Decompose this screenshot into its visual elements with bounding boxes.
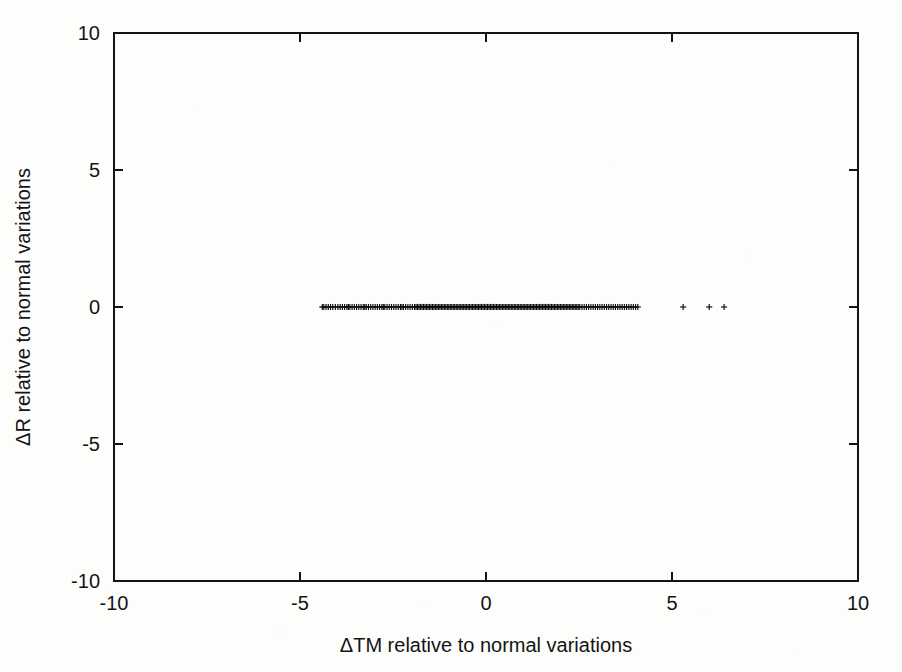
- data-point-markers: [319, 304, 727, 310]
- y-tick-label: -10: [71, 570, 100, 592]
- data-point: [680, 304, 686, 310]
- x-tick-label: 10: [847, 592, 869, 614]
- y-tick-label: 5: [89, 159, 100, 181]
- y-axis-tick-labels: -10-50510: [71, 22, 100, 592]
- x-tick-label: -10: [100, 592, 129, 614]
- scatter-plot-canvas: -10-50510 -10-50510 ΔTM relative to norm…: [0, 0, 902, 672]
- y-axis-title: ΔR relative to normal variations: [12, 168, 34, 446]
- y-tick-label: -5: [82, 433, 100, 455]
- x-tick-label: 5: [666, 592, 677, 614]
- x-tick-label: 0: [480, 592, 491, 614]
- y-tick-label: 10: [78, 22, 100, 44]
- figure-root: -10-50510 -10-50510 ΔTM relative to norm…: [0, 0, 902, 672]
- x-axis-title: ΔTM relative to normal variations: [340, 634, 632, 656]
- y-tick-label: 0: [89, 296, 100, 318]
- data-point: [721, 304, 727, 310]
- x-tick-label: -5: [291, 592, 309, 614]
- data-point: [706, 304, 712, 310]
- x-axis-tick-labels: -10-50510: [100, 592, 870, 614]
